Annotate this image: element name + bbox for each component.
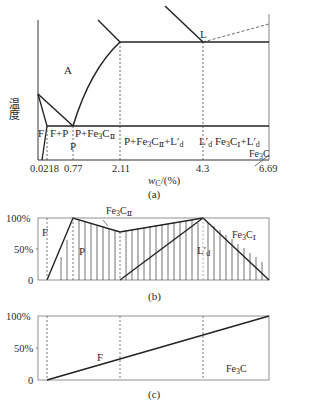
y-tick-c-50: 50% — [14, 343, 34, 354]
caption-c: (c) — [148, 388, 161, 401]
liquidus-right-dashed — [203, 24, 269, 42]
fe-c-diagram: 温度 A L F F+P P P+Fe3CⅡ P+Fe3CⅡ+L′d L′d F… — [0, 0, 309, 410]
caption-a: (a) — [148, 188, 161, 201]
region-f-plus-p: F+P — [50, 127, 68, 139]
region-hypoeutectic: P+Fe3CⅡ+L′d — [124, 135, 183, 149]
ledeburite-rise-line — [120, 218, 203, 280]
y-tick-c-100: 100% — [6, 311, 31, 322]
region-p-plus-fe3c2: P+Fe3CⅡ — [75, 127, 115, 141]
point-P: P — [70, 140, 76, 152]
region-hypereutectic: Fe3CⅠ+L′d — [215, 135, 260, 149]
region-austenite: A — [64, 64, 72, 76]
x-tick-0.77: 0.77 — [64, 163, 82, 174]
label-b-fe3c1: Fe3CⅠ — [232, 229, 256, 242]
liquidus-to-L — [165, 6, 203, 42]
liquidus-left — [98, 20, 120, 42]
label-c-ferrite: F — [97, 351, 103, 363]
y-axis-label: 温度 — [8, 98, 21, 121]
acm-line — [73, 42, 120, 126]
label-b-pearlite: P — [79, 245, 85, 257]
y-tick-b-0: 0 — [28, 275, 33, 286]
label-c-cementite: Fe3C — [226, 363, 247, 376]
fe3c2-pointer — [103, 220, 108, 226]
y-tick-b-100: 100% — [6, 213, 31, 224]
point-L: L — [200, 28, 207, 40]
label-b-fe3c2: Fe3CⅡ — [106, 205, 132, 218]
label-b-ferrite: F — [42, 226, 48, 238]
x-tick-2.11: 2.11 — [112, 163, 130, 174]
a3-line — [38, 94, 73, 126]
y-tick-b-50: 50% — [14, 244, 34, 255]
x-tick-6.69: 6.69 — [259, 163, 277, 174]
panel-c-phase-fraction: 100% 50% 0 F Fe3C (c) — [6, 311, 269, 401]
region-cementite: Fe3C — [249, 148, 270, 161]
region-ledeburite: L′d — [199, 135, 212, 149]
x-tick-4.3: 4.3 — [196, 163, 209, 174]
region-ferrite: F — [38, 127, 44, 139]
panel-a-phase-diagram: 温度 A L F F+P P P+Fe3CⅡ P+Fe3CⅡ+L′d L′d F… — [8, 6, 277, 201]
x-axis-label: wC/(%) — [148, 174, 181, 188]
x-tick-0.0218: 0.0218 — [30, 163, 59, 174]
caption-b: (b) — [148, 290, 161, 303]
panel-b-structure-fraction: 100% 50% 0 F P Fe3CⅡ L′d Fe3CⅠ (b) — [6, 205, 269, 303]
y-tick-c-0: 0 — [28, 375, 33, 386]
